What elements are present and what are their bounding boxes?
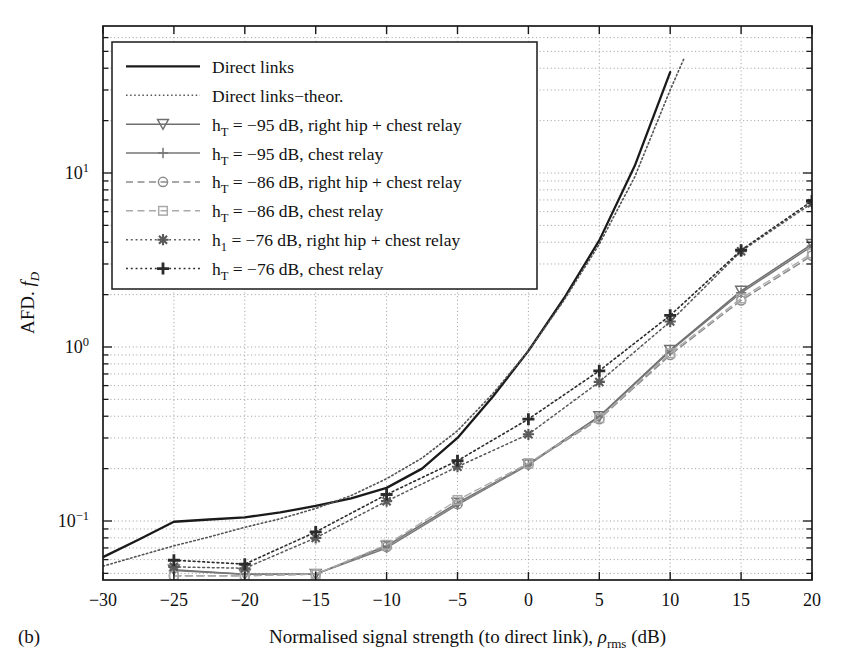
xtick-label: 15: [732, 590, 750, 610]
legend-frame[interactable]: [112, 42, 537, 289]
xtick-label: −25: [160, 590, 188, 610]
legend-item-label[interactable]: Direct links: [212, 57, 294, 77]
xtick-label: −15: [302, 590, 330, 610]
afd-log-plot: −30−25−20−15−10−50510152010110010−1 Dire…: [0, 0, 844, 672]
xtick-label: 0: [524, 590, 533, 610]
data-point-marker: [523, 429, 534, 440]
figure-container: −30−25−20−15−10−50510152010110010−1 Dire…: [0, 0, 844, 672]
xtick-label: 20: [803, 590, 821, 610]
legend-item-label[interactable]: Direct links−theor.: [212, 86, 343, 106]
xtick-label: 5: [595, 590, 604, 610]
xtick-label: −5: [448, 590, 467, 610]
xtick-label: −20: [231, 590, 259, 610]
xtick-label: 10: [661, 590, 679, 610]
data-point-marker: [594, 376, 605, 387]
xtick-label: −10: [373, 590, 401, 610]
legend-box[interactable]: Direct linksDirect links−theor.hT = −95 …: [112, 42, 537, 289]
xtick-label: −30: [89, 590, 117, 610]
data-point-marker: [157, 234, 168, 245]
panel-label: (b): [18, 626, 40, 648]
